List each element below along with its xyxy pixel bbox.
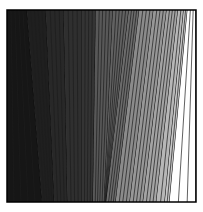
wedge-chart <box>0 0 203 212</box>
band-group <box>7 10 196 202</box>
figure-container <box>0 0 203 212</box>
